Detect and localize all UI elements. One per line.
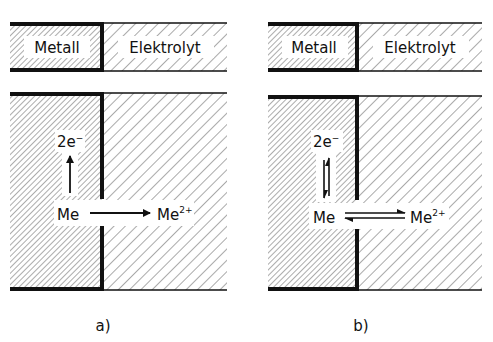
electrolyte-label: Elektrolyt xyxy=(129,39,201,57)
electrolyte-region xyxy=(357,96,482,290)
panel-a-header: Metall Elektrolyt xyxy=(10,22,227,72)
panel-b: Metall Elektrolyt 2e− Me Me2+ b) xyxy=(268,22,482,335)
metal-species-label: Me xyxy=(313,209,335,227)
panel-a: Metall Elektrolyt 2e− Me Me2+ a) xyxy=(10,22,227,335)
electrolyte-label: Elektrolyt xyxy=(384,39,456,57)
panel-a-caption: a) xyxy=(95,317,110,335)
electrolyte-region xyxy=(102,93,227,290)
panel-b-main: 2e− Me Me2+ xyxy=(268,95,482,291)
metal-region xyxy=(10,93,102,290)
metal-species-label: Me xyxy=(57,206,79,224)
panel-b-header: Metall Elektrolyt xyxy=(268,22,482,72)
metal-label: Metall xyxy=(34,39,80,57)
panel-b-caption: b) xyxy=(353,317,368,335)
metal-region xyxy=(268,96,357,290)
metal-label: Metall xyxy=(291,39,337,57)
corrosion-diagram: Metall Elektrolyt 2e− Me Me2+ a) xyxy=(0,0,493,342)
panel-a-main: 2e− Me Me2+ xyxy=(10,92,227,291)
